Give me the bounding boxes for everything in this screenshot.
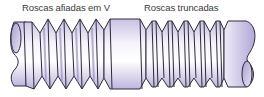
right-end — [224, 21, 255, 87]
threaded-rod-diagram — [0, 0, 264, 97]
truncated-threads-section — [146, 21, 224, 87]
left-end — [11, 22, 26, 86]
plain-shank — [104, 19, 146, 89]
v-threads-section — [24, 19, 104, 89]
